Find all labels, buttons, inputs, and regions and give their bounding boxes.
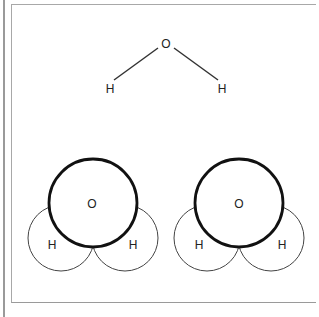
bond-left (114, 48, 158, 80)
atom-label-hydrogen-left: H (48, 238, 57, 252)
atom-label-hydrogen-left: H (195, 238, 204, 252)
atom-label-oxygen: O (87, 197, 96, 211)
bond-right (174, 48, 218, 80)
atom-label-hydrogen-right: H (278, 238, 287, 252)
structural-formula: O H H (106, 37, 227, 96)
atom-label-hydrogen-right: H (218, 82, 227, 96)
space-filling-model-2: O H H (174, 159, 304, 271)
water-molecule-diagram: O H H O H H O H H (0, 0, 319, 317)
atom-label-hydrogen-right: H (129, 238, 138, 252)
atom-label-oxygen: O (161, 37, 170, 51)
space-filling-model-1: O H H (28, 159, 158, 271)
atom-label-oxygen: O (234, 197, 243, 211)
atom-label-hydrogen-left: H (106, 82, 115, 96)
